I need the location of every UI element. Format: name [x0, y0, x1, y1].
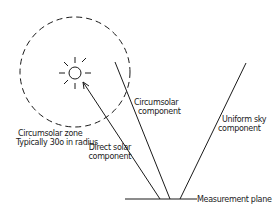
uniform-label-line1: Uniform sky	[222, 115, 266, 124]
direct-solar-label: Direct solar component	[86, 143, 131, 161]
zone-label-line1: Circumsolar zone	[18, 129, 98, 138]
plane-label-text: Measurement plane	[197, 195, 272, 204]
circumsolar-label-line2: component	[138, 107, 181, 116]
direct-label-line2: component	[86, 152, 131, 161]
circumsolar-zone-circle	[20, 17, 130, 127]
diagram-canvas: Circumsolar zone Typically 30o in radius…	[0, 0, 279, 218]
measurement-plane-label: Measurement plane	[197, 195, 272, 204]
uniform-sky-label: Uniform sky component	[218, 115, 266, 133]
circumsolar-label-line1: Circumsolar	[134, 98, 181, 107]
uniform-label-line2: component	[218, 124, 266, 133]
circumsolar-component-label: Circumsolar component	[134, 98, 181, 116]
circumsolar-line	[115, 62, 170, 199]
direct-label-line1: Direct solar	[86, 143, 131, 152]
